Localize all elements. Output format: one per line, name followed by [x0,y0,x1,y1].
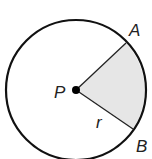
shaded-sector [76,43,145,129]
label-center: P [54,83,66,102]
center-point [72,86,80,94]
label-radius: r [96,113,103,132]
label-point-b: B [136,137,147,156]
circle-diagram: P A B r [0,0,152,159]
label-point-a: A [128,21,140,40]
